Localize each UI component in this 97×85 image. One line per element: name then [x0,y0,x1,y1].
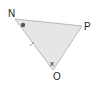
vertex-label-N: N [8,8,15,19]
triangle-diagram: N P O x [0,0,97,85]
angle-O-label-x: x [50,59,54,68]
angle-N-dot-mark [21,23,25,27]
vertex-label-O: O [53,71,61,82]
triangle-NPO [15,19,82,70]
vertex-label-P: P [84,21,91,32]
